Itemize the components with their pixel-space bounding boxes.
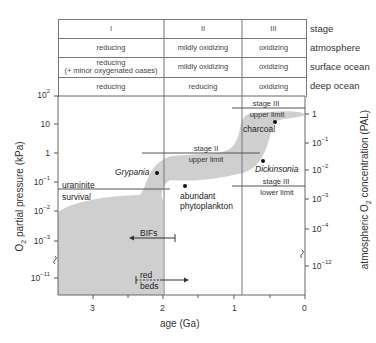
x-tick-3: 3 <box>90 303 95 313</box>
stage3-lower-label-2: lower limit <box>254 188 300 197</box>
left-tick-1e-11: 10−11 <box>20 273 50 283</box>
grypania-label: Grypania <box>115 167 150 177</box>
survival-label: survival <box>62 192 91 202</box>
right-tick-1e-12: 10−12 <box>312 261 332 271</box>
right-tick-0.001: 10−3 <box>312 194 328 204</box>
left-tick-100: 102 <box>20 90 50 100</box>
beds-label: beds <box>140 281 158 291</box>
stage2-upper-label-2: upper limit <box>180 155 232 164</box>
stage3-upper-label-2: upper limit <box>242 110 292 119</box>
stage2-upper-label-1: stage II <box>186 144 226 153</box>
uraninite-label: uraninite <box>62 180 95 190</box>
stage3-lower-label-1: stage III <box>256 177 296 186</box>
grypania-point <box>155 171 159 175</box>
abundant-label: abundant <box>180 191 215 201</box>
x-tick-2: 2 <box>160 303 165 313</box>
charcoal-label: charcoal <box>243 124 275 134</box>
bifs-label: BIFs <box>140 228 157 238</box>
dickinsonia-label: Dickinsonia <box>255 164 298 174</box>
left-axis-title: O2 partial pressure (kPa) <box>14 122 27 272</box>
x-tick-1: 1 <box>232 303 237 313</box>
x-axis-title: age (Ga) <box>160 318 199 329</box>
right-axis-title: atmospheric O2 concentration (PAL) <box>359 90 372 290</box>
x-tick-0: 0 <box>302 303 307 313</box>
stage3-upper-label-1: stage III <box>246 99 286 108</box>
abundant-phytoplankton-point <box>183 184 187 188</box>
red-label: red <box>140 270 152 280</box>
right-tick-1: 1 <box>312 109 317 119</box>
right-tick-0.01: 10−2 <box>312 165 328 175</box>
right-tick-1e-4: 10−4 <box>312 224 328 234</box>
right-tick-0.1: 10−1 <box>312 138 328 148</box>
dickinsonia-point <box>261 159 265 163</box>
phytoplankton-label: phytoplankton <box>180 201 233 211</box>
